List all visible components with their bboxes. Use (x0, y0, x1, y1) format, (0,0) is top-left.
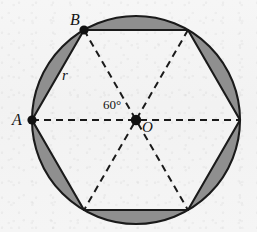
circle-hexagon-drawing (0, 0, 257, 232)
label-point-a: A (12, 112, 22, 128)
point-marker-o (131, 115, 141, 125)
point-marker-a (27, 115, 36, 124)
label-radius-r: r (62, 68, 68, 83)
label-point-b: B (70, 12, 80, 28)
geometry-figure: A B r 60° O (0, 0, 257, 232)
label-central-angle: 60° (103, 98, 121, 111)
point-marker-b (79, 25, 88, 34)
label-center-o: O (142, 120, 153, 135)
